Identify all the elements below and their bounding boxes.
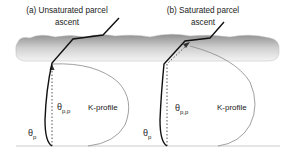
panel-a-title: (a) Unsaturated parcel ascent — [22, 5, 112, 29]
panel-b-title: (b) Saturated parcel ascent — [158, 5, 248, 29]
cloud-layer — [16, 34, 279, 61]
panel-a-title-line1: (a) Unsaturated parcel — [22, 5, 112, 17]
panel-a-k-profile-label: K-profile — [88, 103, 118, 112]
panel-a-title-line2: ascent — [22, 17, 112, 29]
panel-b-theta-pp-label: θp,p — [175, 103, 188, 115]
panel-b-title-line2: ascent — [158, 17, 248, 29]
panel-b-theta-p-label: θp — [143, 128, 151, 140]
panel-b-k-profile-label: K-profile — [217, 103, 247, 112]
panel-a-theta-p-label: θp — [28, 128, 36, 140]
panel-b-title-line1: (b) Saturated parcel — [158, 5, 248, 17]
panel-a-theta-pp-label: θp,p — [57, 102, 70, 114]
